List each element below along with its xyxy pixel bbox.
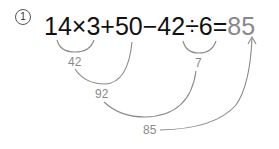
step-result-85: 85 [143,124,156,136]
step-arcs [0,0,279,149]
step-result-42: 42 [68,56,81,68]
step-result-7: 7 [195,57,202,69]
step-result-92: 92 [95,88,108,100]
